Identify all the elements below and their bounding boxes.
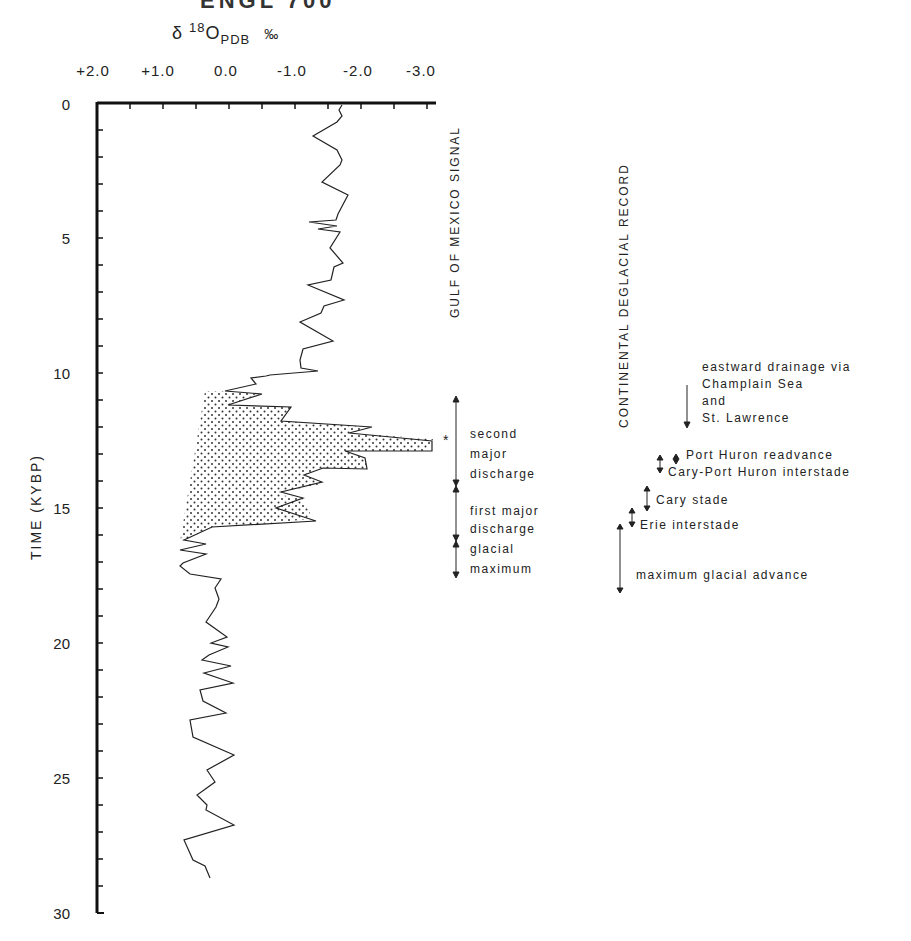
continental-label: St. Lawrence: [702, 411, 790, 425]
continental-record-header: CONTINENTAL DEGLACIAL RECORD: [617, 163, 631, 428]
continental-label: and: [702, 394, 727, 408]
gulf-label: discharge: [470, 522, 536, 536]
discharge-shaded-region: [180, 391, 433, 542]
continental-label: maximum glacial advance: [636, 568, 809, 582]
continental-label: Cary stade: [656, 493, 729, 507]
gulf-signal-header: GULF OF MEXICO SIGNAL: [448, 126, 462, 318]
continental-label: Port Huron readvance: [686, 448, 833, 462]
gulf-label: second: [470, 427, 518, 441]
gulf-events-bracket: [453, 396, 459, 578]
continental-label: Erie interstade: [640, 518, 740, 532]
star-marker: *: [443, 432, 450, 448]
continental-label: Cary-Port Huron interstade: [668, 465, 850, 479]
gulf-label: major: [470, 447, 508, 461]
gulf-label: first major: [470, 504, 539, 518]
gulf-label: maximum: [470, 562, 533, 576]
continental-label: Champlain Sea: [702, 377, 804, 391]
gulf-label: discharge: [470, 467, 536, 481]
continental-label: eastward drainage via: [702, 360, 851, 374]
gulf-label: glacial: [470, 542, 515, 556]
